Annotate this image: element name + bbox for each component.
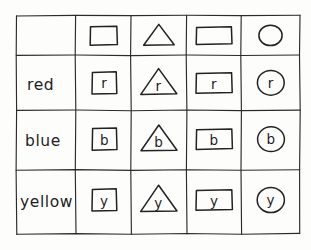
cell-blue-rectangle: b xyxy=(196,129,232,149)
grid-col-divider-1 xyxy=(75,15,76,233)
cell-red-triangle: r xyxy=(141,69,177,95)
triangle-icon xyxy=(144,24,175,45)
table-row: red r r r r xyxy=(27,69,284,96)
grid-col-divider-4 xyxy=(241,16,242,235)
row-label-yellow: yellow xyxy=(20,193,73,211)
cell-red-square: r xyxy=(92,72,117,94)
table-row: yellow y y y y xyxy=(20,185,284,212)
cell-red-circle: r xyxy=(257,70,284,95)
table-row: blue b b b b xyxy=(25,125,284,152)
color-shape-table: red r r r r blue b xyxy=(0,0,311,250)
grid-row-divider-3 xyxy=(16,170,300,171)
cell-letter: y xyxy=(210,193,219,209)
cell-yellow-circle: y xyxy=(257,187,284,212)
header-cell-rectangle xyxy=(196,27,232,45)
cell-blue-triangle: b xyxy=(141,125,177,151)
cell-letter: r xyxy=(156,78,162,94)
header-cell-circle xyxy=(259,25,282,45)
cell-letter: y xyxy=(100,193,109,209)
grid-border-top xyxy=(17,15,301,16)
grid-border-bottom xyxy=(17,233,300,234)
cell-letter: b xyxy=(266,131,275,147)
cell-letter: y xyxy=(267,192,276,208)
grid-row-divider-2 xyxy=(17,110,300,111)
circle-icon xyxy=(259,25,282,45)
cell-letter: b xyxy=(100,132,109,148)
grid-border-right xyxy=(300,15,301,233)
cell-letter: y xyxy=(154,195,163,211)
cell-yellow-rectangle: y xyxy=(196,190,232,210)
drawing-sheet: red r r r r blue b xyxy=(0,0,311,250)
cell-letter: r xyxy=(211,76,217,92)
row-label-blue: blue xyxy=(25,132,61,150)
cell-yellow-square: y xyxy=(92,189,117,211)
grid-row-divider-1 xyxy=(16,55,299,56)
row-label-red: red xyxy=(27,76,54,94)
cell-yellow-triangle: y xyxy=(141,185,177,211)
header-cell-triangle xyxy=(144,24,175,45)
cell-red-rectangle: r xyxy=(196,73,232,93)
cell-blue-square: b xyxy=(92,128,117,150)
cell-letter: b xyxy=(154,134,163,150)
cell-letter: r xyxy=(101,75,107,91)
grid-col-divider-3 xyxy=(186,15,187,233)
rectangle-icon xyxy=(196,27,232,45)
cell-blue-circle: b xyxy=(258,127,285,152)
grid-col-divider-2 xyxy=(131,16,132,235)
cell-letter: r xyxy=(268,75,274,91)
cell-letter: b xyxy=(210,132,219,148)
header-cell-square xyxy=(90,26,117,45)
grid-border-left xyxy=(16,16,17,235)
square-icon xyxy=(90,26,117,45)
